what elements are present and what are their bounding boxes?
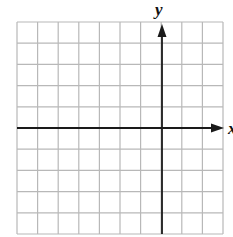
x-axis-label: x <box>227 119 233 138</box>
y-axis-label: y <box>153 0 163 19</box>
y-axis-arrow-icon <box>158 24 167 37</box>
coordinate-plane: y x <box>0 0 233 237</box>
x-axis-arrow-icon <box>211 124 224 133</box>
